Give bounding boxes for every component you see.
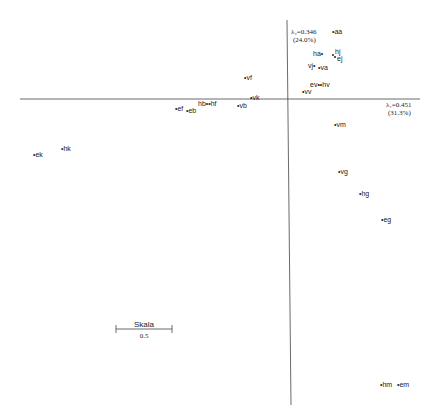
x-axis-lambda-label: λ₁=0.451: [386, 101, 412, 109]
point-va: •va: [318, 64, 328, 71]
point-eb: •eb: [186, 107, 196, 114]
point-ej-marker: [334, 56, 336, 58]
point-ej: ej: [337, 55, 343, 63]
point-aa: •aa: [332, 28, 342, 35]
point-ef: •ef: [175, 105, 183, 112]
point-vm: •vm: [334, 121, 346, 128]
point-vk: •vk: [250, 94, 260, 101]
point-vv: •vv: [302, 88, 312, 95]
point-ev-hv: ev••hv: [310, 81, 330, 88]
point-ha: ha•: [313, 50, 324, 57]
point-ek: •ek: [33, 151, 43, 158]
point-hb-hf: hb••hf: [198, 100, 217, 107]
biplot-chart: λ₂=0.346 (24.0%) λ₁=0.451 (31.3%) •aa ha…: [0, 0, 438, 415]
y-axis: [287, 20, 291, 405]
scale-bar: Skala 0.5: [116, 320, 172, 340]
y-axis-percent-label: (24.0%): [293, 36, 316, 44]
point-em: •em: [397, 381, 409, 388]
point-vg: •vg: [338, 168, 348, 176]
scale-title: Skala: [134, 320, 155, 329]
point-vb: •vb: [237, 102, 247, 109]
point-hg: •hg: [359, 190, 369, 198]
scale-value: 0.5: [140, 332, 149, 340]
point-vf: •vf: [244, 74, 252, 81]
point-vj: vj•: [308, 62, 316, 70]
y-axis-lambda-label: λ₂=0.346: [291, 28, 317, 36]
point-eg: •eg: [381, 216, 391, 224]
point-hj-marker: [332, 54, 334, 56]
x-axis-percent-label: (31.3%): [388, 109, 411, 117]
point-hm: •hm: [380, 381, 392, 388]
point-hk: •hk: [61, 145, 71, 152]
